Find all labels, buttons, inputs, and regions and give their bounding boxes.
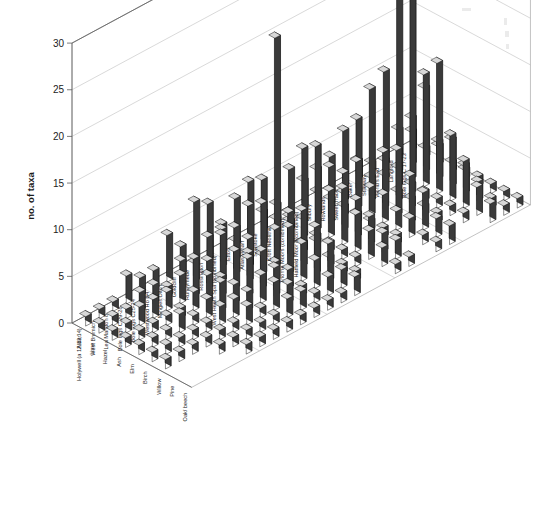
site-label: Bole Ings C 29-28 [117,306,123,351]
three-d-bar-chart: 051015202530 Holywell (a 12,13,14)West B… [0,0,533,519]
site-label: West Heath Spa (combined) [211,255,217,325]
site-label: Hatfield Moor 8(combined) [293,211,299,277]
species-label: Oak/ beech [182,393,188,422]
site-label: Goldcliff [171,277,177,298]
species-label: Elm [129,364,135,374]
site-label: Bole Ings C25-24 [130,299,136,342]
site-label: Etton [225,248,231,261]
y-axis-title: no. of taxa [25,172,36,220]
site-label: World's End [374,168,380,198]
species-label: Pine [169,386,175,397]
site-label: Baker [347,182,353,197]
chart-figure: 051015202530 Holywell (a 12,13,14)West B… [0,0,533,519]
site-label: Silbury [306,204,312,221]
chart-y-tick-labels: 051015202530 [53,38,72,329]
y-tick-label: 20 [53,131,65,142]
site-label: Westwood Ho B4 [144,292,150,335]
site-label: Thorne Moors (combined) [279,219,285,283]
site-label: Rossington [198,263,204,291]
site-label: Sweet Track [333,189,339,220]
species-label: Birch [142,371,148,384]
site-label: Croft Neolithic [266,226,272,261]
site-label: Atlas Wharf [239,240,245,269]
y-tick-label: 5 [58,271,64,282]
species-label: Lime [89,343,95,355]
y-tick-label: 15 [53,178,65,189]
site-label: Rowlands [320,197,326,222]
site-label: Runnymede [184,270,190,300]
site-label: Lea Marston 8 [103,314,109,350]
site-label: Shustoke [252,233,258,256]
y-tick-label: 30 [53,38,65,49]
site-label: Langford [388,160,394,182]
site-label: Bole Ings C 17-23 [401,153,407,198]
site-label: Stileway [361,175,367,196]
species-label: Hazel [102,350,108,364]
species-label: Ash [116,357,122,367]
y-tick-label: 0 [58,318,64,329]
site-label: Mingies Ditch [157,285,163,319]
species-label: Willow [156,378,162,395]
y-tick-label: 10 [53,224,65,235]
species-label: Alder [76,335,82,348]
y-tick-label: 25 [53,84,65,95]
